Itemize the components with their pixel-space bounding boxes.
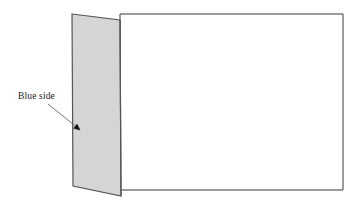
- diagram-figure: Blue side: [0, 0, 360, 210]
- blue-side-label: Blue side: [18, 92, 55, 102]
- diagram-canvas: [0, 0, 360, 210]
- right-sheet-shape: [120, 14, 343, 190]
- left-panel-shape: [72, 14, 121, 196]
